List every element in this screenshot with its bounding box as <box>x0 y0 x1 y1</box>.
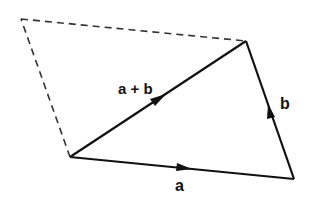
label-vector-a: a <box>175 177 184 194</box>
label-vector-b: b <box>280 95 290 112</box>
vector-b-arrowhead-icon <box>267 104 275 119</box>
dashed-edge-a-copy <box>21 19 246 41</box>
label-vector-sum: a + b <box>118 80 153 97</box>
vector-addition-diagram: a + b b a <box>0 0 310 198</box>
dashed-edge-b-copy <box>21 19 70 157</box>
